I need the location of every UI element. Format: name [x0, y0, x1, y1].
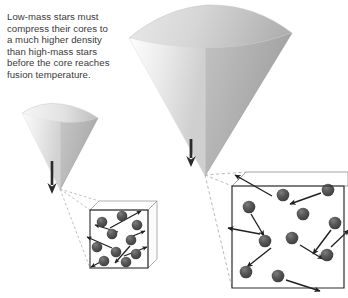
particle-spheres-low-mass	[92, 211, 143, 268]
core-box-side-low-mass	[148, 201, 157, 268]
caption-line-2: compress their cores to	[7, 23, 108, 35]
core-box-top-low-mass	[90, 201, 157, 210]
core-box-low-mass	[87, 201, 157, 268]
funnel-high-mass	[129, 5, 292, 176]
figure-canvas: Low-mass stars must compress their cores…	[0, 0, 348, 298]
core-particles-low-mass	[87, 211, 147, 268]
caption-line-4: than high-mass stars	[7, 46, 97, 58]
caption-line-3: a much higher density	[7, 34, 102, 46]
core-particles-high-mass	[228, 175, 348, 291]
caption-line-1: Low-mass stars must	[7, 11, 99, 23]
caption-line-5: before the core reaches	[7, 57, 109, 69]
caption-line-6: fusion temperature.	[7, 69, 91, 81]
funnel-low-mass	[22, 103, 98, 190]
core-box-high-mass	[228, 172, 348, 291]
leader-lines-low-mass	[60, 189, 99, 268]
